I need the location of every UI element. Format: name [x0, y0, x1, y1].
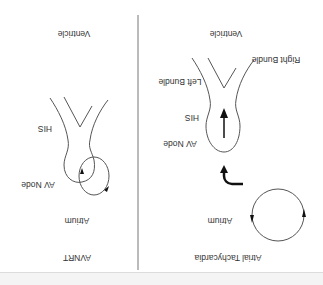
at-his-label: HIS: [185, 113, 199, 123]
avnrt-av-node-label: AV Node: [21, 180, 54, 190]
avnrt-atrium-label: Atrium: [65, 216, 90, 226]
avnrt-panel-title: AVNRT: [63, 253, 91, 263]
bottom-border-band: [0, 272, 323, 285]
at-av-node-label: AV Node: [163, 139, 196, 149]
avnrt-conduction-tree: [50, 97, 108, 182]
at-conduction-tree: [192, 58, 254, 152]
atrial-reentry-loop: [250, 189, 306, 241]
at-panel-title: Atrial Tachycardia: [195, 253, 262, 263]
his-conduction-arrow-icon: [220, 108, 228, 138]
avnrt-his-label: HIS: [38, 124, 52, 134]
at-right-bundle-label: Right Bundle: [252, 55, 301, 65]
avnrt-ventricle-label: Ventricle: [58, 29, 91, 39]
loop-arrow-up-icon: [302, 209, 306, 217]
at-atrium-label: Atrium: [208, 216, 233, 226]
at-ventricle-label: Ventricle: [210, 29, 243, 39]
at-left-bundle-label: Left Bundle: [158, 77, 201, 87]
atrium-to-av-node-arrow-icon: [220, 165, 243, 184]
loop-arrow-up-icon: [80, 168, 84, 174]
